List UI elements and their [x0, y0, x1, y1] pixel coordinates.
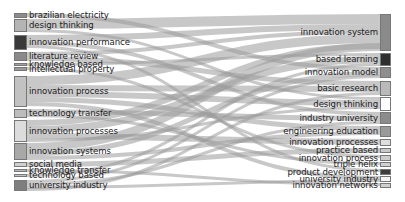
sankey-node-left[interactable]: [14, 76, 27, 107]
sankey-node-left[interactable]: [14, 109, 27, 118]
sankey-node-right[interactable]: [380, 139, 391, 146]
sankey-node-left[interactable]: [14, 35, 27, 50]
sankey-node-left[interactable]: [14, 52, 27, 61]
node-label: innovation processes: [29, 127, 118, 136]
sankey-node-left[interactable]: [14, 63, 27, 66]
sankey-node-right[interactable]: [380, 183, 391, 188]
node-label: innovation system: [301, 28, 378, 37]
sankey-node-right[interactable]: [380, 155, 391, 161]
node-label: innovation process: [29, 87, 108, 96]
node-label: technology transfer: [29, 109, 112, 118]
node-label: industry university: [299, 114, 378, 123]
sankey-node-right[interactable]: [380, 148, 391, 153]
node-label: design thinking: [313, 100, 378, 109]
sankey-node-right[interactable]: [380, 53, 391, 66]
sankey-node-right[interactable]: [380, 176, 391, 182]
sankey-node-left[interactable]: [14, 143, 27, 160]
sankey-node-left[interactable]: [14, 13, 27, 18]
sankey-node-left[interactable]: [14, 180, 27, 191]
sankey-node-right[interactable]: [380, 162, 391, 167]
node-label: engineering education: [283, 127, 378, 136]
sankey-node-right[interactable]: [380, 67, 391, 78]
sankey-node-left[interactable]: [14, 174, 27, 177]
sankey-node-left[interactable]: [14, 19, 27, 32]
sankey-node-left[interactable]: [14, 120, 27, 142]
sankey-node-right[interactable]: [380, 112, 391, 124]
sankey-node-right[interactable]: [380, 81, 391, 96]
node-label: innovation model: [305, 68, 378, 77]
sankey-node-left[interactable]: [14, 162, 27, 167]
sankey-node-right[interactable]: [380, 126, 391, 137]
node-label: university industry: [29, 181, 108, 190]
sankey-node-left[interactable]: [14, 67, 27, 71]
node-label: basic research: [317, 84, 378, 93]
sankey-diagram: brazilian electricitydesign thinkinginno…: [0, 0, 405, 202]
node-label: innovation systems: [29, 147, 111, 156]
node-label: technology based: [29, 171, 104, 180]
node-label: innovation networks: [292, 181, 378, 190]
node-label: innovation performance: [29, 38, 130, 47]
sankey-node-right[interactable]: [380, 169, 391, 175]
sankey-node-right[interactable]: [380, 97, 391, 111]
sankey-node-left[interactable]: [14, 169, 27, 172]
node-label: intellectual property: [29, 65, 114, 74]
node-label: brazilian electricity: [29, 11, 109, 20]
node-label: based learning: [316, 55, 378, 64]
sankey-node-right[interactable]: [380, 14, 391, 51]
node-label: design thinking: [29, 21, 94, 30]
